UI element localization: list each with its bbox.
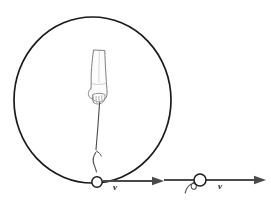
velocity-label-1: v (113, 183, 117, 192)
figure-canvas (0, 0, 271, 203)
hand-icon (88, 50, 107, 104)
ball-on-path (92, 177, 102, 187)
string-path (93, 103, 101, 173)
released-ball-group (164, 174, 266, 193)
ball-released-circle (194, 174, 206, 186)
velocity-label-2: v (218, 182, 222, 191)
physics-figure: v v (0, 0, 271, 203)
